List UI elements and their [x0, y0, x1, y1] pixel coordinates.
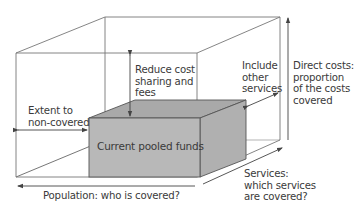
reduce-cost-label: Reduce cost sharing and fees — [135, 64, 195, 99]
services-label: Services: which services are covered? — [244, 168, 316, 203]
extent-label: Extent to non-covered — [28, 105, 89, 128]
current-pooled-funds-box — [89, 100, 246, 177]
direct-costs-label: Direct costs: proportion of the costs co… — [293, 60, 354, 106]
include-services-arrow — [248, 93, 278, 106]
box-label: Current pooled funds — [97, 141, 204, 153]
include-other-label: Include other services — [242, 60, 282, 95]
population-label: Population: who is covered? — [43, 190, 180, 202]
